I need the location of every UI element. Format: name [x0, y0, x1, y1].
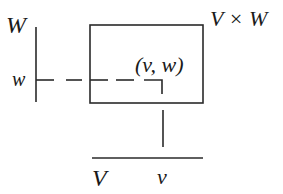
w-point-label: w — [12, 68, 26, 90]
pair-label: (v, w) — [135, 52, 183, 77]
product-space-label: V × W — [210, 6, 269, 31]
w-axis-label: W — [6, 12, 28, 38]
v-point-label: v — [157, 164, 167, 189]
point-marker — [144, 80, 162, 94]
product-space-diagram: W w V × W (v, w) V v — [0, 0, 283, 194]
v-axis-label: V — [92, 165, 109, 191]
